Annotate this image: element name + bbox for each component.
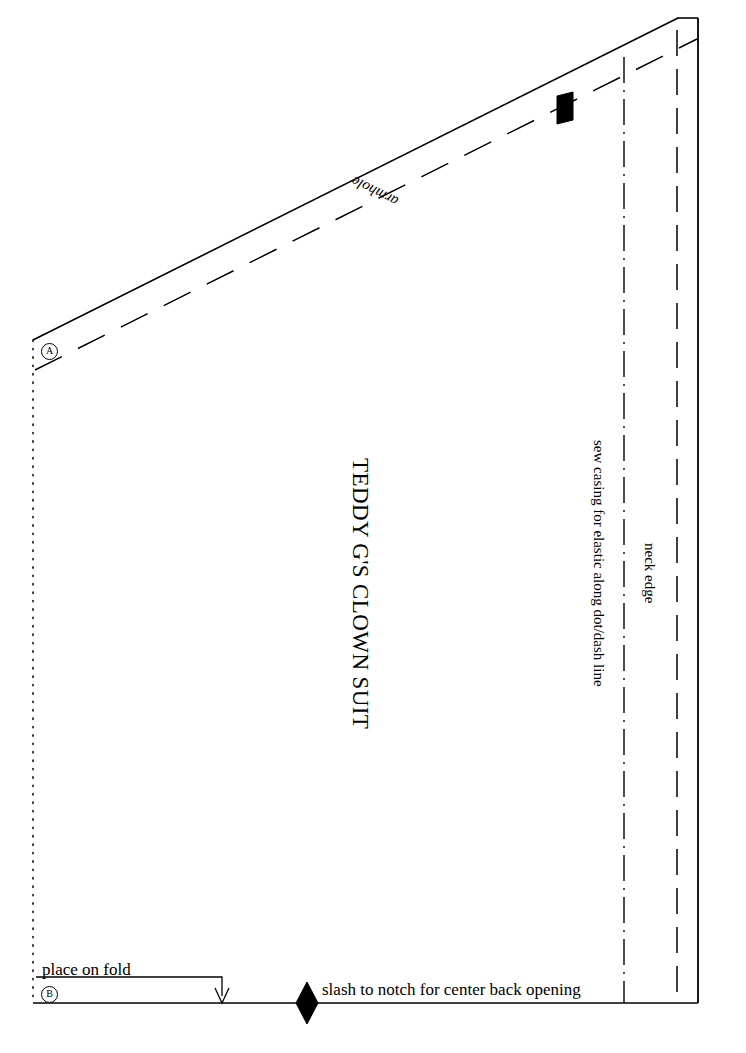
pattern-drawing [0, 0, 746, 1053]
sew-casing-instruction-label: sew casing for elastic along dot/dash li… [591, 440, 606, 687]
place-on-fold-label: place on fold [42, 961, 131, 978]
page-title: TEDDY G'S CLOWN SUIT [349, 458, 372, 729]
place-on-fold-bracket [36, 977, 222, 996]
neck-edge-label: neck edge [642, 543, 657, 603]
armhole-notch-marker [557, 92, 573, 124]
armhole-dashed-seamline [35, 39, 697, 370]
center-back-notch-marker [296, 982, 318, 1024]
alignment-marker-b: B [41, 986, 58, 1003]
alignment-marker-a: A [41, 343, 58, 360]
slash-to-notch-label: slash to notch for center back opening [322, 981, 581, 998]
pattern-sheet: TEDDY G'S CLOWN SUIT armhole sew casing … [0, 0, 746, 1053]
